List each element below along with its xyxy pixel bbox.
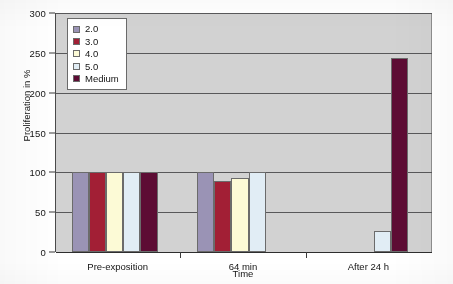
bar-pre-exposition-2.0 bbox=[72, 172, 89, 252]
y-tick-label-150: 150 bbox=[30, 127, 46, 138]
legend-swatch-icon-5.0 bbox=[73, 63, 80, 70]
legend-label-2.0: 2.0 bbox=[85, 24, 98, 34]
legend-label-4.0: 4.0 bbox=[85, 49, 98, 59]
legend-item-4.0: 4.0 bbox=[73, 48, 119, 60]
y-tick-label-0: 0 bbox=[41, 247, 46, 258]
bar-64-min-2.0 bbox=[197, 172, 214, 252]
legend-item-2.0: 2.0 bbox=[73, 23, 119, 35]
y-axis-title: Proliferation in % bbox=[21, 36, 32, 176]
y-tick-label-100: 100 bbox=[30, 167, 46, 178]
bar-after-24-h-5.0 bbox=[374, 231, 391, 252]
y-tick-label-50: 50 bbox=[35, 207, 46, 218]
x-tick-mark-1 bbox=[180, 252, 181, 258]
gridline-300 bbox=[56, 13, 432, 14]
bar-64-min-3.0 bbox=[214, 181, 231, 252]
legend-label-3.0: 3.0 bbox=[85, 37, 98, 47]
y-tick-label-250: 250 bbox=[30, 47, 46, 58]
y-tick-label-300: 300 bbox=[30, 8, 46, 19]
legend-label-medium: Medium bbox=[85, 74, 119, 84]
legend-item-3.0: 3.0 bbox=[73, 35, 119, 47]
bar-pre-exposition-4.0 bbox=[106, 172, 123, 252]
legend-swatch-icon-medium bbox=[73, 75, 80, 82]
x-axis-baseline bbox=[56, 252, 432, 253]
gridline-150 bbox=[56, 133, 432, 134]
gridline-200 bbox=[56, 93, 432, 94]
bar-after-24-h-medium bbox=[391, 58, 408, 252]
legend-swatch-icon-3.0 bbox=[73, 38, 80, 45]
bar-64-min-5.0 bbox=[249, 172, 266, 252]
bar-pre-exposition-medium bbox=[140, 172, 157, 252]
legend-label-5.0: 5.0 bbox=[85, 62, 98, 72]
y-tick-label-200: 200 bbox=[30, 87, 46, 98]
proliferation-bar-chart: 050100150200250300 Proliferation in % 2.… bbox=[0, 0, 453, 284]
bar-pre-exposition-5.0 bbox=[123, 172, 140, 252]
chart-legend: 2.03.04.05.0Medium bbox=[67, 18, 127, 90]
legend-swatch-icon-4.0 bbox=[73, 50, 80, 57]
bar-64-min-4.0 bbox=[231, 178, 248, 252]
legend-item-5.0: 5.0 bbox=[73, 60, 119, 72]
legend-item-medium: Medium bbox=[73, 73, 119, 85]
legend-swatch-icon-2.0 bbox=[73, 26, 80, 33]
x-axis-title: Time bbox=[55, 268, 431, 279]
x-tick-mark-2 bbox=[306, 252, 307, 258]
bar-pre-exposition-3.0 bbox=[89, 172, 106, 252]
